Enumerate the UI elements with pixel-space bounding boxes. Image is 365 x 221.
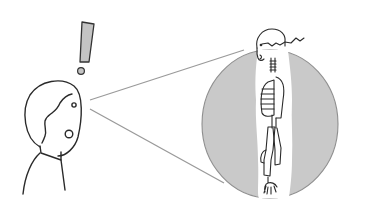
exclamation-mark-icon (78, 22, 94, 74)
person-eye (72, 103, 76, 107)
person-mouth (65, 130, 73, 138)
person-shoulder-right (61, 160, 65, 190)
person-head (25, 81, 81, 156)
person-figure (23, 81, 81, 194)
person-shoulder-left (23, 153, 40, 194)
person-hair (42, 94, 72, 143)
illustration-canvas (0, 0, 365, 221)
